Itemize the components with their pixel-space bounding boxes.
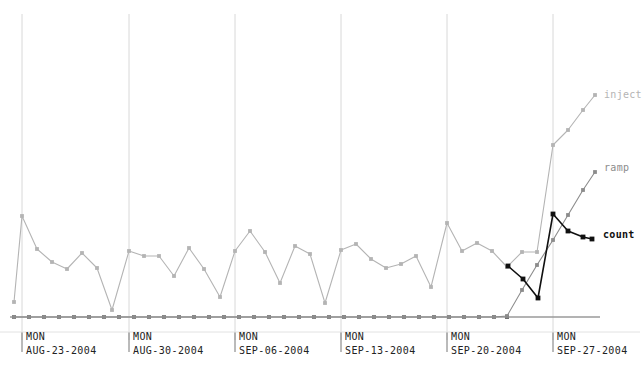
- x-axis-tick-label: MONSEP-06-2004: [239, 330, 310, 358]
- data-point-inject: [278, 281, 282, 285]
- data-point-inject: [233, 249, 237, 253]
- data-point-inject: [399, 262, 403, 266]
- data-point-ramp: [372, 315, 376, 319]
- x-axis-tick-date: SEP-06-2004: [239, 344, 310, 358]
- x-axis-tick-weekday: MON: [26, 330, 97, 344]
- x-axis-tick-weekday: MON: [557, 330, 628, 344]
- x-axis-tick-weekday: MON: [133, 330, 204, 344]
- x-axis-tick-label: MONAUG-30-2004: [133, 330, 204, 358]
- data-point-inject: [20, 214, 24, 218]
- data-point-ramp: [357, 315, 361, 319]
- data-point-inject: [354, 242, 358, 246]
- data-point-inject: [263, 250, 267, 254]
- data-point-ramp: [297, 315, 301, 319]
- x-axis-tick-weekday: MON: [239, 330, 310, 344]
- data-point-ramp: [282, 315, 286, 319]
- data-point-ramp: [417, 315, 421, 319]
- data-point-ramp: [207, 315, 211, 319]
- x-axis-tick-weekday: MON: [451, 330, 522, 344]
- data-point-ramp: [432, 315, 436, 319]
- x-axis-tick-label: MONSEP-20-2004: [451, 330, 522, 358]
- x-axis-tick-date: SEP-13-2004: [345, 344, 416, 358]
- data-point-ramp: [312, 315, 316, 319]
- series-line-count: [508, 214, 592, 298]
- data-point-inject: [110, 308, 114, 312]
- data-point-count: [590, 237, 595, 242]
- data-point-ramp: [342, 315, 346, 319]
- data-point-inject: [566, 128, 570, 132]
- data-point-inject: [157, 254, 161, 258]
- data-point-inject: [293, 244, 297, 248]
- data-point-ramp: [520, 288, 524, 292]
- data-point-ramp: [477, 315, 481, 319]
- data-point-inject: [12, 300, 16, 304]
- data-point-ramp: [492, 315, 496, 319]
- data-point-ramp: [327, 315, 331, 319]
- chart-container: MONAUG-23-2004MONAUG-30-2004MONSEP-06-20…: [0, 0, 644, 376]
- series-line-ramp: [14, 172, 595, 317]
- x-axis-tick-label: MONSEP-27-2004: [557, 330, 628, 358]
- data-point-ramp: [162, 315, 166, 319]
- data-point-inject: [65, 267, 69, 271]
- x-axis-tick-label: MONAUG-23-2004: [26, 330, 97, 358]
- data-point-inject: [187, 246, 191, 250]
- data-point-inject: [460, 249, 464, 253]
- legend-label-inject: inject: [604, 89, 642, 100]
- data-point-inject: [218, 295, 222, 299]
- data-point-count: [506, 264, 511, 269]
- data-point-ramp: [192, 315, 196, 319]
- data-point-inject: [490, 249, 494, 253]
- data-point-ramp: [566, 213, 570, 217]
- series-ramp: [12, 170, 597, 319]
- data-point-ramp: [102, 315, 106, 319]
- data-point-inject: [339, 248, 343, 252]
- data-point-ramp: [535, 263, 539, 267]
- data-point-ramp: [27, 315, 31, 319]
- chart-plot-area: [0, 0, 644, 376]
- data-point-inject: [323, 301, 327, 305]
- series-count: [506, 212, 595, 301]
- data-point-ramp: [132, 315, 136, 319]
- data-point-inject: [445, 221, 449, 225]
- data-point-inject: [308, 252, 312, 256]
- data-point-inject: [202, 267, 206, 271]
- data-point-ramp: [57, 315, 61, 319]
- data-point-inject: [475, 241, 479, 245]
- data-point-inject: [535, 250, 539, 254]
- data-point-ramp: [581, 188, 585, 192]
- data-point-ramp: [402, 315, 406, 319]
- data-point-ramp: [222, 315, 226, 319]
- data-point-ramp: [147, 315, 151, 319]
- data-point-inject: [593, 93, 597, 97]
- x-axis-tick-date: AUG-23-2004: [26, 344, 97, 358]
- data-point-ramp: [72, 315, 76, 319]
- data-point-inject: [50, 260, 54, 264]
- data-point-inject: [414, 254, 418, 258]
- data-point-count: [551, 212, 556, 217]
- data-point-ramp: [505, 314, 509, 318]
- data-point-count: [521, 277, 526, 282]
- data-point-count: [536, 296, 541, 301]
- x-axis-tick-date: SEP-27-2004: [557, 344, 628, 358]
- data-point-inject: [172, 274, 176, 278]
- data-point-ramp: [387, 315, 391, 319]
- legend-label-ramp: ramp: [604, 162, 629, 173]
- data-point-inject: [80, 251, 84, 255]
- data-point-inject: [127, 249, 131, 253]
- data-point-count: [581, 235, 586, 240]
- data-point-inject: [581, 108, 585, 112]
- x-axis-tick-weekday: MON: [345, 330, 416, 344]
- data-point-ramp: [252, 315, 256, 319]
- legend-label-count: count: [603, 229, 635, 240]
- data-point-ramp: [177, 315, 181, 319]
- data-point-count: [566, 229, 571, 234]
- data-point-ramp: [87, 315, 91, 319]
- x-axis-tick-date: SEP-20-2004: [451, 344, 522, 358]
- data-point-inject: [369, 257, 373, 261]
- data-point-ramp: [237, 315, 241, 319]
- data-point-ramp: [267, 315, 271, 319]
- series-inject: [12, 93, 597, 312]
- series-line-inject: [14, 95, 595, 310]
- data-point-ramp: [551, 238, 555, 242]
- data-point-inject: [551, 143, 555, 147]
